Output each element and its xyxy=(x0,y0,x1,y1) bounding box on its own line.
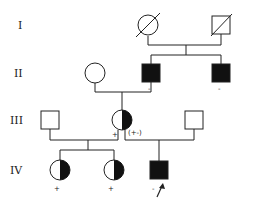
proband-arrow-icon xyxy=(157,183,165,197)
individual-I-1 xyxy=(136,13,160,37)
individual-IV-2 xyxy=(104,160,124,180)
individual-II-2 xyxy=(142,64,160,82)
test-mark: - xyxy=(218,85,221,93)
individual-IV-1 xyxy=(50,160,70,180)
genotype-annotation: (+-) xyxy=(128,129,142,137)
individual-II-3 xyxy=(212,64,230,82)
test-mark: + xyxy=(108,185,114,193)
individual-III-2 xyxy=(112,110,132,130)
generation-label: III xyxy=(10,114,23,127)
half-fill-icon xyxy=(122,110,132,130)
individual-III-1 xyxy=(41,111,59,129)
generation-label: I xyxy=(18,19,22,32)
test-mark: - xyxy=(152,185,155,193)
half-fill-icon xyxy=(60,160,70,180)
generation-label: II xyxy=(14,67,23,80)
individual-II-1 xyxy=(85,63,105,83)
test-mark: + xyxy=(54,185,60,193)
individual-I-2 xyxy=(211,14,232,36)
generation-label: IV xyxy=(10,164,23,177)
individual-IV-3 xyxy=(150,161,168,179)
test-mark: + xyxy=(112,131,118,139)
pedigree-chart: I II III IV - - + (+-) + + xyxy=(0,0,266,201)
half-fill-icon xyxy=(114,160,124,180)
individual-III-3 xyxy=(185,111,203,129)
